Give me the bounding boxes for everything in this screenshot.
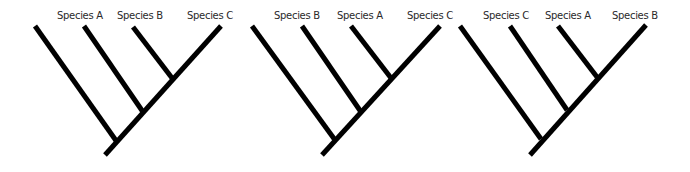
tree3-label-2: Species A [545,11,591,21]
branch-line-2 [84,26,143,112]
trunk-line [530,25,646,155]
trunk-line [105,26,221,155]
tree3-label-1: Species C [483,11,529,21]
tree2-label-1: Species B [274,11,320,21]
branch-line-1 [460,26,541,139]
branch-line-3 [558,26,597,77]
branch-line-1 [35,26,117,142]
branch-line-2 [510,26,567,110]
cladogram-figure: Species A Species B Species C Species B … [0,0,690,172]
tree1-label-1: Species A [57,11,103,21]
tree-2 [252,26,440,155]
tree-3 [460,25,646,155]
branch-line-2 [302,26,361,112]
branch-line-1 [252,26,335,140]
branch-line-3 [351,26,391,78]
trunk-line [322,26,440,155]
tree1-label-2: Species B [117,11,163,21]
tree2-label-3: Species C [407,11,453,21]
branch-line-3 [133,27,172,78]
tree1-label-3: Species C [187,11,233,21]
cladogram-lines [0,0,690,172]
tree-1 [35,26,221,155]
tree3-label-3: Species B [612,11,658,21]
tree2-label-2: Species A [337,11,383,21]
